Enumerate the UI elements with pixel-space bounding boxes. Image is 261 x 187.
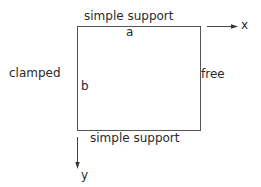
y-axis-arrow xyxy=(75,137,79,169)
height-label: b xyxy=(81,80,89,92)
x-axis-label: x xyxy=(241,19,248,31)
y-axis-label: y xyxy=(81,169,88,181)
top-edge-label: simple support xyxy=(84,10,174,22)
bottom-edge-label: simple support xyxy=(90,132,180,144)
plate-rectangle xyxy=(78,27,201,131)
width-label: a xyxy=(126,26,133,38)
x-axis-arrow xyxy=(207,24,238,28)
right-edge-label: free xyxy=(201,68,225,80)
left-edge-label: clamped xyxy=(9,67,61,79)
